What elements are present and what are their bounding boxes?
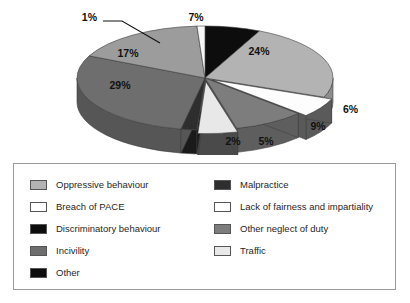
pie-label-malpractice: 2% bbox=[225, 135, 241, 147]
legend-swatch-incivility bbox=[30, 246, 47, 256]
legend-item-other-neglect-of-duty[interactable]: Other neglect of duty bbox=[214, 218, 399, 239]
legend-swatch-lack-of-fairness bbox=[214, 202, 231, 212]
legend-item-incivility[interactable]: Incivility bbox=[30, 240, 205, 261]
legend-column-left: Oppressive behaviourBreach of PACEDiscri… bbox=[30, 174, 205, 284]
legend-swatch-traffic bbox=[214, 246, 231, 256]
legend-item-other[interactable]: Other bbox=[30, 262, 205, 283]
legend-label-traffic: Traffic bbox=[240, 246, 266, 256]
legend-item-breach-of-pace[interactable]: Breach of PACE bbox=[30, 196, 205, 217]
legend-label-incivility: Incivility bbox=[56, 246, 89, 256]
chart-legend: Oppressive behaviourBreach of PACEDiscri… bbox=[13, 163, 396, 290]
legend-label-malpractice: Malpractice bbox=[240, 180, 289, 190]
pie-chart-area: 7%24%6%5%9%2%29%17%1% bbox=[0, 0, 410, 155]
legend-label-discriminatory-behaviour: Discriminatory behaviour bbox=[56, 224, 161, 234]
legend-swatch-breach-of-pace bbox=[30, 202, 47, 212]
legend-swatch-other-neglect-of-duty bbox=[214, 224, 231, 234]
legend-column-right: MalpracticeLack of fairness and impartia… bbox=[214, 174, 399, 262]
pie-label-lack-of-fairness: 6% bbox=[343, 103, 359, 115]
pie-label-discriminatory-behaviour: 1% bbox=[82, 11, 98, 23]
pie-label-oppressive-behaviour: 24% bbox=[248, 45, 270, 57]
legend-label-lack-of-fairness: Lack of fairness and impartiality bbox=[240, 202, 373, 212]
legend-item-lack-of-fairness[interactable]: Lack of fairness and impartiality bbox=[214, 196, 399, 217]
legend-label-breach-of-pace: Breach of PACE bbox=[56, 202, 124, 212]
legend-swatch-oppressive-behaviour bbox=[30, 180, 47, 190]
legend-item-discriminatory-behaviour[interactable]: Discriminatory behaviour bbox=[30, 218, 205, 239]
legend-item-oppressive-behaviour[interactable]: Oppressive behaviour bbox=[30, 174, 205, 195]
legend-item-traffic[interactable]: Traffic bbox=[214, 240, 399, 261]
legend-label-oppressive-behaviour: Oppressive behaviour bbox=[56, 180, 148, 190]
pie-label-other: 7% bbox=[188, 11, 204, 23]
pie-chart-svg: 7%24%6%5%9%2%29%17%1% bbox=[0, 0, 410, 155]
legend-label-other: Other bbox=[56, 268, 80, 278]
legend-swatch-other bbox=[30, 268, 47, 278]
legend-item-malpractice[interactable]: Malpractice bbox=[214, 174, 399, 195]
pie-label-other-neglect-of-duty: 9% bbox=[310, 120, 326, 132]
pie-label-traffic: 5% bbox=[258, 135, 274, 147]
legend-swatch-malpractice bbox=[214, 180, 231, 190]
legend-swatch-discriminatory-behaviour bbox=[30, 224, 47, 234]
pie-label-breach-of-pace: 17% bbox=[117, 47, 139, 59]
pie-label-incivility: 29% bbox=[109, 79, 131, 91]
legend-label-other-neglect-of-duty: Other neglect of duty bbox=[240, 224, 328, 234]
